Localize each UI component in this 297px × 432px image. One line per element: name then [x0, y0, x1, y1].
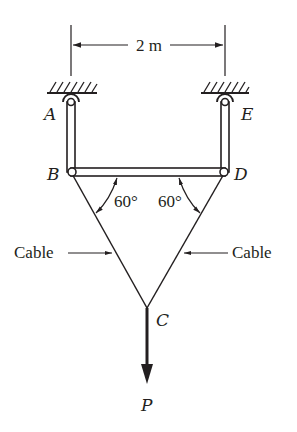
pins	[68, 99, 229, 177]
point-b-label: B	[46, 164, 60, 184]
load-label: P	[140, 395, 153, 415]
angle-arcs	[96, 178, 200, 213]
truss-cable-diagram: 2 m	[0, 0, 297, 432]
cable-left-label: Cable	[14, 243, 54, 262]
cables	[71, 172, 225, 308]
cable-right-label: Cable	[232, 243, 272, 262]
bar-bd	[71, 168, 225, 176]
angle-left-label: 60°	[114, 192, 138, 211]
bar-ed	[221, 102, 229, 172]
dimension-label: 2 m	[136, 36, 162, 55]
point-d-label: D	[233, 164, 248, 184]
bar-ab	[67, 102, 75, 172]
point-e-label: E	[240, 104, 254, 124]
load-arrow-head	[141, 364, 153, 384]
angle-right-label: 60°	[158, 192, 182, 211]
point-a-label: A	[42, 104, 56, 124]
point-c-label: C	[156, 310, 169, 330]
